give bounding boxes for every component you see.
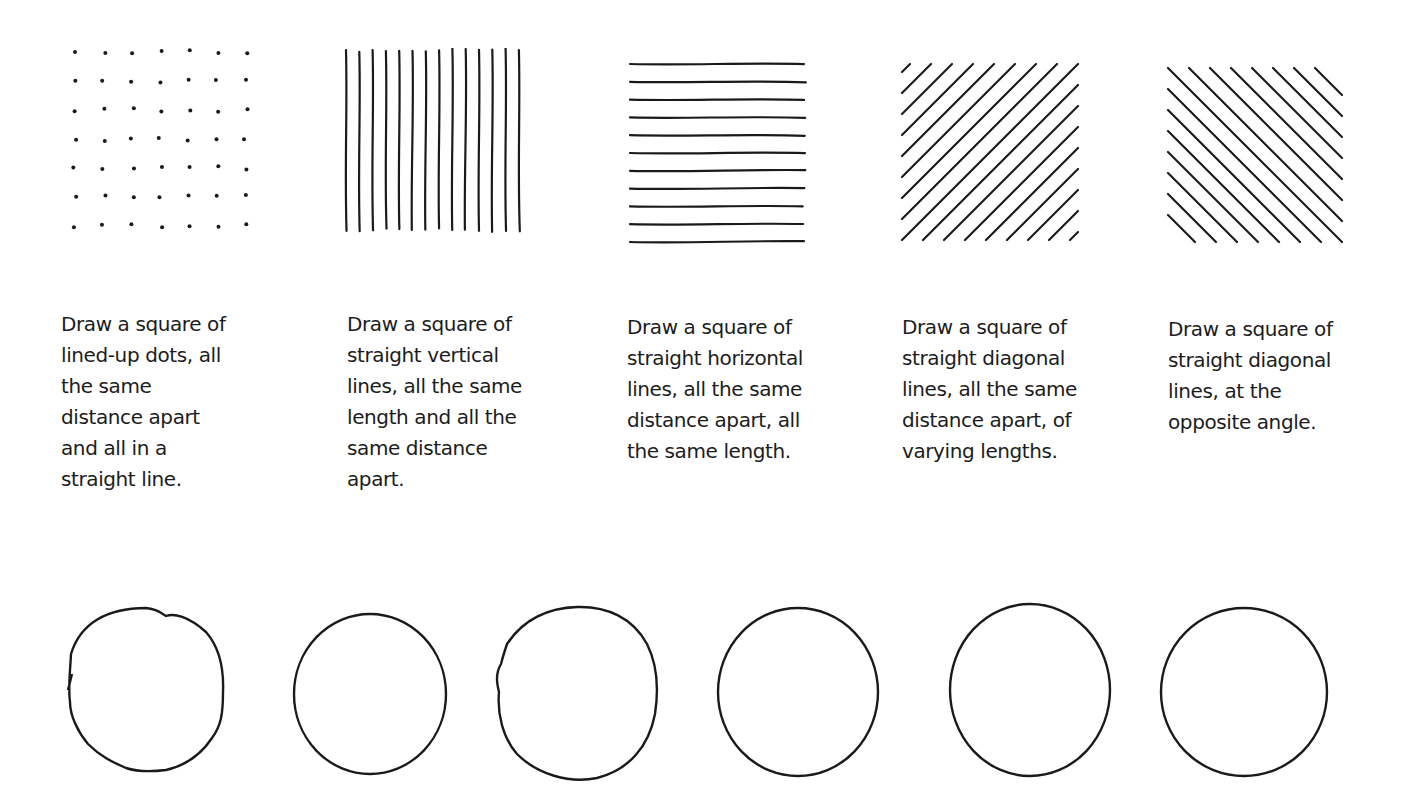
practice-circle-4 (714, 604, 886, 784)
practice-circle-2 (292, 608, 452, 780)
caption-horizontal-lines: Draw a square of straight horizontal lin… (627, 312, 803, 467)
diagonal-up-lines-icon (900, 58, 1082, 248)
circle-outline-icon (950, 604, 1110, 776)
circle-outline-icon (68, 608, 223, 771)
circle-outline-icon (294, 614, 446, 774)
practice-circle-3 (493, 604, 661, 784)
practice-circle-6 (1158, 604, 1332, 782)
circle-outline-icon (1161, 608, 1327, 776)
practice-circle-1 (66, 604, 228, 774)
dot-grid-pattern (68, 44, 252, 234)
practice-circle-5 (946, 600, 1114, 780)
caption-dots: Draw a square of lined-up dots, all the … (61, 309, 226, 495)
vertical-lines-icon (340, 48, 530, 238)
circle-outline-icon (497, 607, 657, 780)
circle-outline-icon (718, 608, 878, 776)
caption-diagonal-down-lines: Draw a square of straight diagonal lines… (1168, 314, 1333, 438)
horizontal-lines-icon (626, 60, 810, 246)
caption-diagonal-up-lines: Draw a square of straight diagonal lines… (902, 312, 1077, 467)
vertical-lines-pattern (340, 48, 530, 238)
dot-grid-icon (68, 44, 252, 234)
horizontal-lines-pattern (626, 60, 810, 246)
diagonal-down-lines-pattern (1166, 64, 1346, 248)
diagonal-up-lines-pattern (900, 58, 1082, 248)
diagonal-down-lines-icon (1166, 64, 1346, 248)
caption-vertical-lines: Draw a square of straight vertical lines… (347, 309, 522, 495)
